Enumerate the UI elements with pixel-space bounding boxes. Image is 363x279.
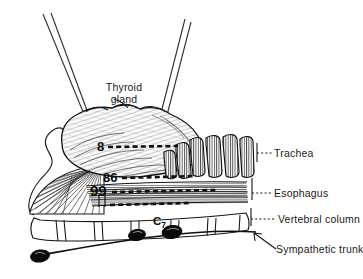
label-leader-sympathetic — [254, 233, 276, 249]
label-trachea: Trachea — [274, 147, 314, 159]
annotation-leader-8 — [108, 146, 178, 147]
label-leader-esophagus — [252, 178, 272, 200]
label-thyroid-line1: Thyroid — [106, 81, 142, 93]
annotation-99: 99 — [90, 182, 107, 199]
annotation-8: 8 — [97, 139, 104, 154]
label-esophagus: Esophagus — [274, 187, 328, 199]
label-sympathetic-trunk: Sympathetic trunk — [276, 243, 363, 255]
c7-number: 7 — [161, 220, 166, 230]
label-thyroid-gland: Thyroid gland — [95, 82, 153, 105]
label-leader-trachea — [257, 143, 272, 162]
annotation-vertebra-c7: C7 — [153, 215, 166, 230]
label-leader-vertebral — [251, 208, 276, 226]
label-thyroid-line2: gland — [111, 93, 138, 105]
label-vertebral-column: Vertebral column — [278, 213, 360, 225]
needle-pair-right — [160, 19, 191, 124]
